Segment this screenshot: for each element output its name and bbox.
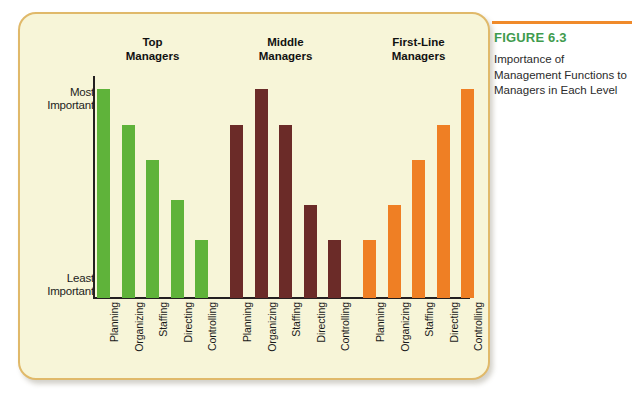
bar — [195, 76, 208, 298]
bar — [388, 76, 401, 298]
bar — [304, 76, 317, 298]
axis-label-most-line2: Important — [47, 99, 94, 111]
tick-label-directing: Directing — [182, 302, 194, 343]
group-title-middle-managers: Middle Managers — [222, 36, 350, 63]
bar-rect-first-line-managers-directing — [437, 125, 450, 298]
bar — [328, 76, 341, 298]
bar — [230, 76, 243, 298]
caption-panel: FIGURE 6.3 Importance of Management Func… — [492, 12, 632, 380]
bar — [279, 76, 292, 298]
group-title-line1: First-Line — [392, 36, 444, 48]
bar — [461, 76, 474, 298]
tick-label-organizing: Organizing — [266, 302, 278, 352]
figure-caption-text: Importance of Management Functions to Ma… — [494, 52, 628, 99]
tick-label-controlling: Controlling — [472, 302, 484, 351]
bar — [412, 76, 425, 298]
bar — [171, 76, 184, 298]
tick-label-planning: Planning — [241, 302, 253, 342]
figure-card: Top Managers Middle Managers First-Line … — [18, 12, 490, 380]
bar-rect-first-line-managers-staffing — [412, 160, 425, 298]
axis-label-least-line2: Important — [47, 285, 94, 297]
bar-rect-middle-managers-directing — [304, 205, 317, 298]
tick-label-controlling: Controlling — [339, 302, 351, 351]
axis-label-most-important: Most Important — [8, 86, 94, 112]
tick-label-directing: Directing — [448, 302, 460, 343]
bar-rect-middle-managers-controlling — [328, 240, 341, 298]
bar-rect-middle-managers-planning — [230, 125, 243, 298]
bar — [255, 76, 268, 298]
bar — [122, 76, 135, 298]
axis-label-least-important: Least Important — [8, 272, 94, 298]
tick-label-staffing: Staffing — [157, 302, 169, 337]
bar-rect-first-line-managers-controlling — [461, 89, 474, 298]
group-title-line2: Managers — [126, 50, 180, 62]
tick-label-staffing: Staffing — [423, 302, 435, 337]
bar-rect-top-managers-staffing — [146, 160, 159, 298]
tick-label-planning: Planning — [108, 302, 120, 342]
axis-label-most-line1: Most — [70, 86, 94, 98]
bar-rect-first-line-managers-planning — [363, 240, 376, 298]
figure-number: FIGURE 6.3 — [494, 30, 567, 45]
bar-rect-top-managers-controlling — [195, 240, 208, 298]
tick-label-planning: Planning — [374, 302, 386, 342]
group-title-first-line-managers: First-Line Managers — [355, 36, 483, 63]
bar — [363, 76, 376, 298]
bar-rect-first-line-managers-organizing — [388, 205, 401, 298]
bar-rect-top-managers-directing — [171, 200, 184, 298]
tick-label-directing: Directing — [315, 302, 327, 343]
bar-rect-middle-managers-organizing — [255, 89, 268, 298]
bar-rect-top-managers-organizing — [122, 125, 135, 298]
group-title-line1: Top — [142, 36, 162, 48]
tick-label-staffing: Staffing — [290, 302, 302, 337]
bar — [97, 76, 110, 298]
bar-rect-middle-managers-staffing — [279, 125, 292, 298]
group-title-line1: Middle — [267, 36, 303, 48]
bar — [146, 76, 159, 298]
tick-label-organizing: Organizing — [399, 302, 411, 352]
bars-layer — [93, 76, 470, 298]
group-title-line2: Managers — [392, 50, 446, 62]
axis-label-least-line1: Least — [67, 272, 94, 284]
caption-rule — [492, 21, 632, 24]
bar-chart: Top Managers Middle Managers First-Line … — [20, 14, 492, 382]
page-root: Top Managers Middle Managers First-Line … — [0, 0, 639, 400]
tick-label-controlling: Controlling — [206, 302, 218, 351]
tick-label-organizing: Organizing — [133, 302, 145, 352]
bar — [437, 76, 450, 298]
group-title-top-managers: Top Managers — [89, 36, 217, 63]
group-title-line2: Managers — [259, 50, 313, 62]
bar-rect-top-managers-planning — [97, 89, 110, 298]
